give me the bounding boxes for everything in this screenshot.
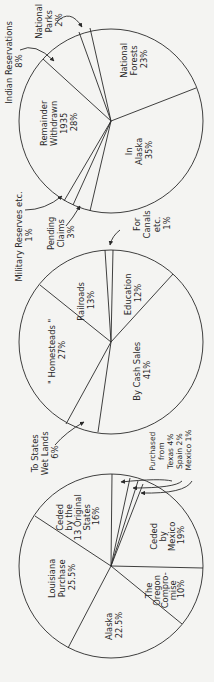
slice-divider [90,121,111,211]
label-wet-lands: To States Wet Lands 6% [30,429,60,475]
arrow-mexico [141,481,192,493]
label-military-reserves: Military Reserves etc. 1% [14,189,34,282]
label-purchased: Purchased from Texas 4% Spain 2% Mexico … [148,429,193,471]
label-ceded-13-states: Ceded by the 13 Original States 16% [55,492,101,541]
slice-divider [66,342,111,424]
label-louisiana-purchase: Louisiana Purchase 25.5% [47,556,77,598]
arrow-for-canals [110,230,120,245]
slice-divider [111,474,112,566]
label-ceded-by-mexico: Ceded by Mexico 19% [149,519,186,551]
slice-divider [90,28,111,121]
slice-divider [73,121,111,205]
slice-divider [111,478,130,566]
slice-divider [98,342,111,432]
label-alaska: Alaska 22.5% [104,610,124,640]
slice-divider [64,121,111,201]
pie-withdrawn-labels: National Forests 23% National Parks 2% I… [4,1,154,281]
label-education: Education 12% [123,271,143,315]
label-railroads: Railroads 13% [76,279,96,320]
pie-acquisition-labels: Purchased from Texas 4% Spain 2% Mexico … [47,429,193,640]
label-in-alaska: In Alaska 35% [124,135,154,165]
slice-divider [111,250,113,342]
slice-divider [111,566,203,568]
arrow-spain [133,481,182,488]
slice-divider [111,481,138,566]
slice-divider [79,32,111,121]
arrow-military-reserves [25,196,62,210]
label-indian-reservations: Indian Reservations 8% [4,18,24,103]
label-for-canals: For Canals etc. 1% [132,208,172,239]
label-national-parks: National Parks 2% [34,1,64,39]
label-oregon-compromise: The Oregon Compro- mise 10% [144,570,186,609]
pie-charts-svg: National Forests 23% National Parks 2% I… [0,0,214,682]
slice-divider [105,250,111,342]
arrow-wet-lands [55,422,84,445]
arrow-pending-claims [66,206,80,226]
pie-charts-figure: National Forests 23% National Parks 2% I… [0,0,214,682]
label-remainder-withdrawn: Remainder Withdrawn 1935 28% [39,98,79,146]
label-cash-sales: By Cash Sales 41% [132,339,152,401]
label-homesteads: " Homesteads " 27% [47,316,67,384]
label-national-forests: National Forests 23% [119,40,149,78]
slice-divider [111,88,196,121]
arrow-indian-reservations [20,48,54,61]
slice-divider [111,484,143,566]
